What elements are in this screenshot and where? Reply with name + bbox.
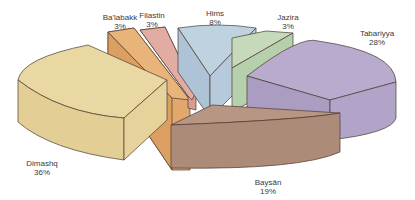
label-balabakk: Ba'labakk3% (103, 13, 137, 31)
label-baysan: Baysān19% (255, 178, 282, 196)
label-tabariyya: Tabariyya28% (360, 29, 394, 47)
label-dimashq: Dimashq36% (26, 159, 58, 177)
label-filastin: Filastin3% (139, 11, 164, 29)
pie-chart (0, 0, 415, 200)
label-jazira: Jazira3% (277, 13, 298, 31)
slice-baysan (171, 105, 340, 168)
label-hims: Hims8% (206, 9, 224, 27)
